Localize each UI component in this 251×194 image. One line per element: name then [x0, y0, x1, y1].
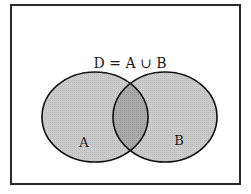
set-b-label: B — [174, 133, 184, 148]
set-a-label: A — [78, 135, 89, 150]
venn-diagram: D = A ∪ B A B — [0, 0, 251, 194]
diagram-title: D = A ∪ B — [94, 55, 167, 71]
